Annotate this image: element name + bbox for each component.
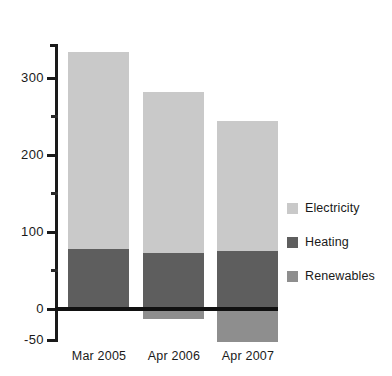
plot-area: 300 200 100 0 -50 Mar 2005 Apr 2006 Apr … (0, 0, 392, 376)
bar-segment-renewables-apr-2007 (217, 309, 278, 342)
legend-swatch-electricity-icon (287, 203, 298, 214)
bar-segment-heating-mar-2005 (68, 249, 129, 309)
bar-segment-electricity-apr-2006 (143, 92, 204, 253)
legend-swatch-heating-icon (287, 237, 298, 248)
legend-item-electricity: Electricity (287, 200, 387, 216)
legend-item-heating: Heating (287, 234, 387, 250)
y-tick-minor-50 (51, 269, 58, 272)
x-axis-label-apr-2006: Apr 2006 (137, 349, 211, 363)
legend-label-electricity: Electricity (305, 202, 360, 215)
legend-item-renewables: Renewables (287, 268, 387, 284)
y-tick-neg50 (47, 339, 58, 342)
legend-label-renewables: Renewables (305, 270, 375, 283)
zero-baseline (55, 307, 278, 311)
y-axis-top-cap (50, 44, 58, 47)
bar-segment-electricity-mar-2005 (68, 52, 129, 249)
legend-label-heating: Heating (305, 236, 349, 249)
y-tick-300 (47, 77, 58, 80)
bar-segment-heating-apr-2006 (143, 253, 204, 309)
legend-swatch-renewables-icon (287, 271, 298, 282)
x-axis-label-mar-2005: Mar 2005 (62, 349, 136, 363)
stacked-bar-chart: 300 200 100 0 -50 Mar 2005 Apr 2006 Apr … (0, 0, 392, 376)
y-tick-200 (47, 154, 58, 157)
y-tick-label-100: 100 (21, 225, 44, 238)
x-axis-label-apr-2007: Apr 2007 (211, 349, 285, 363)
y-tick-100 (47, 231, 58, 234)
y-tick-label-0: 0 (36, 302, 44, 315)
bar-segment-heating-apr-2007 (217, 251, 278, 309)
legend: Electricity Heating Renewables (287, 200, 387, 302)
y-tick-minor-250 (51, 115, 58, 118)
y-tick-label-200: 200 (21, 148, 44, 161)
y-tick-minor-150 (51, 192, 58, 195)
y-tick-label-300: 300 (21, 71, 44, 84)
bar-segment-electricity-apr-2007 (217, 121, 278, 251)
y-tick-label-neg50: -50 (24, 333, 44, 346)
